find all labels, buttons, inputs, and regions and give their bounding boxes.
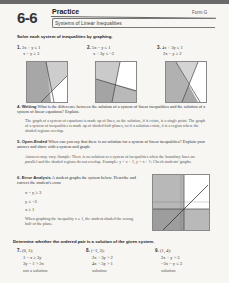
problem-number: 3.	[157, 45, 161, 50]
question-6: 6. Error Analysis A student graphs the s…	[17, 175, 137, 185]
problem-1: 1. 3x + y ≤ 1 x − y ≥ 3	[17, 45, 40, 57]
problem-9: 9. (1, 4); 2x + y > 3 −3x − y ≤ 3 soluti…	[155, 248, 182, 274]
system-eq-2: y ≤ −3	[25, 198, 41, 207]
equation-2: x + 3y ≤ −2	[87, 51, 114, 57]
page-subtitle: Systems of Linear Inequalities	[52, 18, 215, 28]
answer-6: When graphing the inequality x ≥ 1, the …	[25, 216, 137, 226]
equation-1: 3x + y ≤ 1	[22, 45, 41, 50]
answer: solution	[155, 268, 182, 275]
problem-8: 8. (−1, 3); 2x + 3y > 2 4x + 5y > 1 solu…	[86, 248, 113, 274]
system-eq-3: x ≥ 1	[25, 206, 41, 215]
ordered-pair: (0, 1);	[22, 248, 33, 253]
problem-number: 9.	[155, 248, 159, 253]
graph-1	[26, 61, 68, 103]
top-bar	[0, 0, 229, 4]
page-title: Practice	[52, 8, 79, 15]
graph-2	[95, 61, 137, 103]
problem-number: 8.	[86, 248, 90, 253]
ordered-pair: (1, 4);	[160, 248, 171, 253]
question-4: 4. Writing What is the difference betwee…	[17, 104, 207, 114]
problem-3: 3. 4x + 3y ≤ 1 2x − y ≥ 2	[157, 45, 183, 57]
equation-2: x − y ≥ 3	[17, 51, 40, 57]
question-text: What is the difference between the solut…	[17, 104, 205, 114]
equation-1: 4x + 3y ≤ 1	[162, 45, 183, 50]
answer-5: Answers may vary. Sample: There is no so…	[25, 154, 207, 164]
problem-7: 7. (0, 1); 1 − x ≥ 3y 3y − 1 > 2x not a …	[17, 248, 48, 274]
lesson-number: 6-6	[17, 9, 37, 26]
problem-number: 7.	[17, 248, 21, 253]
problem-2: 2. 5x − y ≤ 1 x + 3y ≤ −2	[87, 45, 114, 57]
answer-4: The graph of a system of equations is ma…	[25, 118, 207, 133]
section2-instruction: Determine whether the ordered pair is a …	[13, 239, 154, 244]
question-5: 5. Open-Ended When can you say that ther…	[17, 139, 207, 149]
error-analysis-graph	[152, 174, 210, 231]
equation-1: 5x − y ≤ 1	[92, 45, 111, 50]
graph-3	[165, 61, 207, 103]
equation-2: 2x − y ≥ 2	[157, 51, 183, 57]
answer: not a solution	[17, 268, 48, 275]
form-label: Form G	[192, 10, 207, 15]
answer: solution	[86, 268, 113, 275]
section1-instruction: Solve each system of inequalities by gra…	[17, 34, 113, 39]
error-system: x − y ≥ 3 y ≤ −3 x ≥ 1	[25, 189, 41, 215]
problem-number: 2.	[87, 45, 91, 50]
ordered-pair: (−1, 3);	[91, 248, 105, 253]
problem-number: 1.	[17, 45, 21, 50]
system-eq-1: x − y ≥ 3	[25, 189, 41, 198]
